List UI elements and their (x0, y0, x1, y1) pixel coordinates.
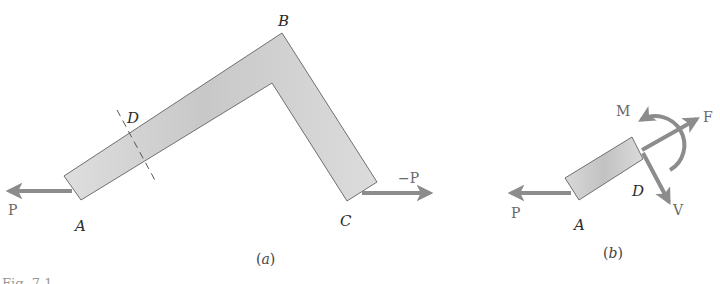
label-point-c: C (340, 212, 352, 230)
label-force-neg-p: −P (398, 170, 419, 186)
figure-caption: Fig. 7.1 (2, 276, 52, 284)
label-point-d: D (126, 109, 139, 127)
label-moment-m: M (616, 103, 630, 119)
label-point-d-b: D (631, 182, 644, 200)
label-point-a: A (73, 217, 86, 235)
figure-canvas: P −P A B C D (a) P F V M A D (b) (0, 0, 720, 284)
force-arrow-f (642, 119, 697, 150)
bent-member-abc (64, 33, 377, 201)
label-force-p: P (8, 202, 17, 218)
panel-b-label: (b) (603, 245, 623, 261)
label-force-p-b: P (511, 205, 520, 221)
panel-a: P −P A B C D (a) (8, 12, 430, 267)
force-arrow-v (643, 153, 669, 202)
label-point-a-b: A (572, 216, 585, 234)
panel-b: P F V M A D (b) (511, 103, 713, 261)
panel-a-label: (a) (256, 251, 275, 267)
label-point-b: B (277, 12, 289, 30)
label-force-f: F (703, 109, 713, 125)
label-force-v: V (672, 202, 684, 218)
